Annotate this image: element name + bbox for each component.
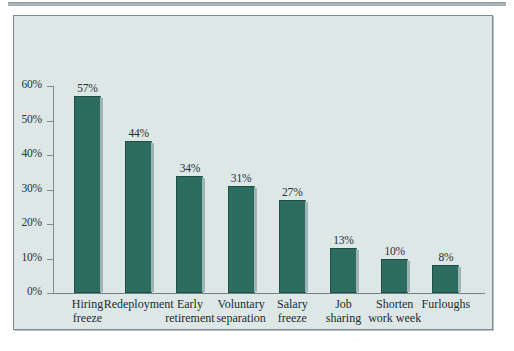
y-axis-tick-mark: [47, 224, 54, 225]
y-axis-tick-label: 0%: [27, 285, 42, 297]
y-axis-tick-mark: [47, 121, 54, 122]
bar-value-label: 13%: [333, 234, 353, 246]
bar-column: 27%: [279, 86, 306, 293]
y-axis-tick: 50%: [47, 121, 54, 122]
y-axis-tick: 20%: [47, 224, 54, 225]
bar-value-label: 10%: [384, 245, 404, 257]
y-axis-tick: 0%: [47, 293, 54, 294]
y-axis-tick-label: 40%: [22, 147, 42, 159]
bar-column: 8%: [432, 86, 459, 293]
y-axis-tick: 60%: [47, 86, 54, 87]
y-axis-tick-mark: [47, 293, 54, 294]
bar[interactable]: [381, 259, 408, 294]
y-axis-tick: 40%: [47, 155, 54, 156]
page-divider-rule: [8, 2, 506, 6]
y-axis-tick-mark: [47, 155, 54, 156]
y-axis-tick-label: 20%: [22, 216, 42, 228]
bar-value-label: 44%: [128, 127, 148, 139]
bar-column: 31%: [228, 86, 255, 293]
bar-column: 57%: [74, 86, 101, 293]
y-axis-tick: 30%: [47, 190, 54, 191]
x-axis-category-label: Furloughs: [406, 297, 486, 311]
bar[interactable]: [176, 176, 203, 293]
bleed-through-text: · · · ·: [352, 336, 372, 345]
y-axis-tick-label: 10%: [22, 251, 42, 263]
y-axis-tick: 10%: [47, 259, 54, 260]
bar[interactable]: [228, 186, 255, 293]
chart-figure-frame: 60%50%40%30%20%10%0% 57%44%34%31%27%13%1…: [13, 15, 493, 330]
bar[interactable]: [279, 200, 306, 293]
bar-value-label: 27%: [282, 186, 302, 198]
x-axis-baseline: [53, 293, 485, 294]
bar-column: 34%: [176, 86, 203, 293]
y-axis-tick-label: 30%: [22, 182, 42, 194]
bar-column: 10%: [381, 86, 408, 293]
y-axis-tick-label: 50%: [22, 113, 42, 125]
bar-value-label: 8%: [438, 251, 453, 263]
y-axis-tick-mark: [47, 190, 54, 191]
y-axis-tick-mark: [47, 259, 54, 260]
bar[interactable]: [125, 141, 152, 293]
y-axis-tick-label: 60%: [22, 78, 42, 90]
bar[interactable]: [330, 248, 357, 293]
bar-column: 44%: [125, 86, 152, 293]
bar-column: 13%: [330, 86, 357, 293]
bar-chart-plot-area: 60%50%40%30%20%10%0% 57%44%34%31%27%13%1…: [14, 16, 494, 331]
y-axis-tick-mark: [47, 86, 54, 87]
bar-value-label: 34%: [180, 162, 200, 174]
bar[interactable]: [432, 265, 459, 293]
bar-value-label: 31%: [231, 172, 251, 184]
bar-value-label: 57%: [77, 82, 97, 94]
bar[interactable]: [74, 96, 101, 293]
